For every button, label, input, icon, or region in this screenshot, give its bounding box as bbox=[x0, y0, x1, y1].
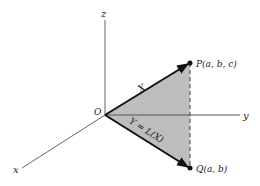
point-p-label: P(a, b, c) bbox=[195, 59, 237, 69]
x-axis bbox=[22, 115, 105, 168]
projection-diagram: z y x O P(a, b, c) Q(a, b) X Y = L(X) bbox=[0, 0, 260, 186]
x-axis-label: x bbox=[13, 164, 19, 175]
z-axis-label: z bbox=[100, 8, 107, 19]
origin-label: O bbox=[94, 107, 102, 117]
point-p bbox=[188, 61, 193, 66]
point-q-label: Q(a, b) bbox=[196, 164, 228, 174]
point-q bbox=[188, 166, 193, 171]
y-axis-label: y bbox=[242, 110, 249, 121]
